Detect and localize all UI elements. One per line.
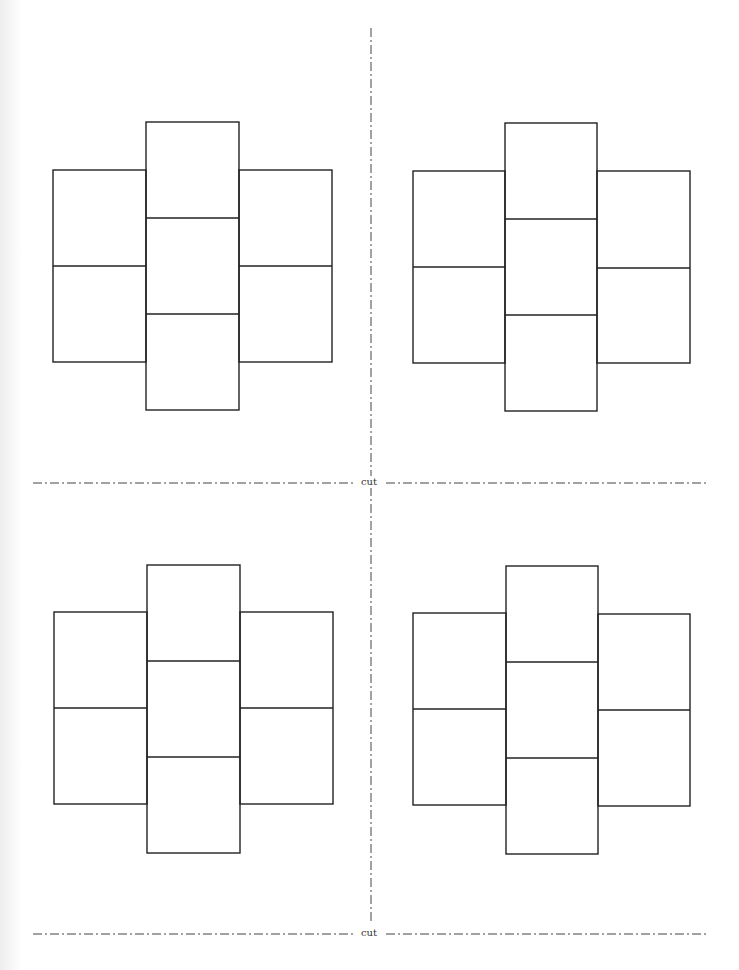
cube-net-top-right	[413, 123, 690, 411]
cube-net-bottom-left	[54, 565, 333, 853]
cube-net-bottom-right	[413, 566, 690, 854]
cube-net-top-left	[53, 122, 332, 410]
cut-label-middle: cut	[358, 476, 380, 488]
cut-label-bottom: cut	[358, 927, 380, 939]
